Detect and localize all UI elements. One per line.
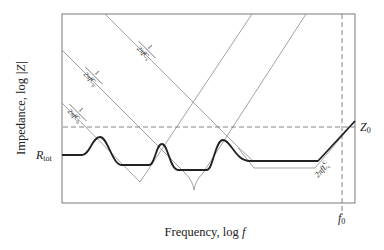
f0-label: f0 (338, 211, 345, 226)
cp-fraction-label: 1 2πfCp (79, 61, 108, 90)
cb-fraction-label: 1 2πfCb (63, 98, 92, 127)
cs-fraction-label: 1 2πfCs (132, 35, 161, 64)
cp-asymptote (62, 14, 306, 190)
y-axis-label: Impedance, log |Z| (14, 61, 28, 155)
r-tot-label: Rtot (35, 148, 53, 163)
impedance-diagram: Impedance, log |Z| Frequency, log f Rtot… (0, 0, 384, 250)
total-impedance-curve (62, 121, 355, 170)
z0-label: Z0 (360, 120, 371, 135)
cs-asymptote (105, 14, 252, 160)
asymptote-lines (62, 14, 355, 190)
plot-frame (62, 14, 355, 203)
cb-asymptote (62, 14, 252, 182)
x-axis-label: Frequency, log f (165, 225, 247, 239)
